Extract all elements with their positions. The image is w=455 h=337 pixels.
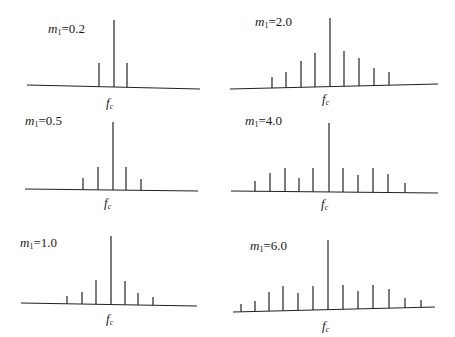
label-m-1.0: m1=1.0 — [20, 236, 57, 251]
label-m-6.0: m1=6.0 — [250, 239, 287, 254]
label-m-4.0: m1=4.0 — [245, 114, 282, 129]
frequency-axis — [231, 191, 438, 193]
fc-label-p5: fc — [106, 312, 113, 327]
fc-label-p3: fc — [104, 196, 111, 211]
spectrum-panel-p3 — [25, 122, 198, 191]
spectrum-lines — [0, 0, 455, 337]
frequency-axis — [25, 189, 198, 191]
label-m-0.2: m1=0.2 — [48, 22, 85, 37]
fm-spectrum-diagram: m1=0.2 m1=2.0 m1=0.5 m1=4.0 m1=1.0 m1=6.… — [0, 0, 455, 337]
fc-label-p4: fc — [321, 197, 328, 212]
label-m-0.5: m1=0.5 — [25, 114, 62, 129]
frequency-axis — [21, 303, 197, 306]
fc-label-p1: fc — [106, 96, 113, 111]
frequency-axis — [230, 84, 438, 89]
spectrum-panel-p4 — [231, 123, 438, 193]
frequency-axis — [233, 307, 435, 312]
fc-label-p2: fc — [322, 92, 329, 107]
label-m-2.0: m1=2.0 — [255, 15, 292, 30]
fc-label-p6: fc — [322, 319, 329, 334]
